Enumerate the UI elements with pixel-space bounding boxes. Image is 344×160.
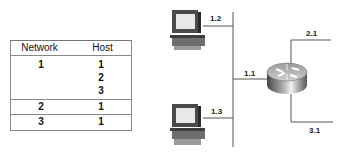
network-2-link <box>291 40 331 64</box>
router-icon <box>267 63 307 94</box>
network-3-link <box>291 94 333 122</box>
computer-icon <box>170 10 205 50</box>
computer-icon <box>170 104 205 145</box>
router-interface-1-address: 1.1 <box>244 69 255 78</box>
network-diagram <box>0 0 344 160</box>
pc-top-address: 1.2 <box>210 14 221 23</box>
router-interface-3-address: 3.1 <box>309 126 320 135</box>
router-interface-2-address: 2.1 <box>306 29 317 38</box>
pc-bottom-address: 1.3 <box>211 107 222 116</box>
